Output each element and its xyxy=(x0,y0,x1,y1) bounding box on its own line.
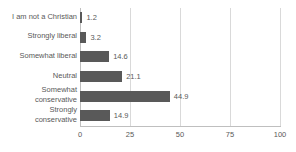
category-label: I am not a Christian xyxy=(3,12,77,22)
horizontal-bar-chart: 1.2 3.2 14.6 21.1 44.9 14.9 I am not a C… xyxy=(0,0,296,152)
gridline-100 xyxy=(280,8,281,126)
bar-value-label: 44.9 xyxy=(174,89,189,104)
bar-row: 14.6 xyxy=(80,47,280,67)
category-label: Neutral xyxy=(3,71,77,81)
bar-row: 1.2 xyxy=(80,8,280,28)
bar-row: 21.1 xyxy=(80,67,280,87)
category-label: Somewhat liberal xyxy=(3,51,77,61)
x-tick-label: 0 xyxy=(65,130,95,140)
bar-row: 44.9 xyxy=(80,87,280,107)
category-label: Strongly liberal xyxy=(3,31,77,41)
bar-segment xyxy=(80,32,86,43)
bar-value-label: 14.9 xyxy=(114,108,129,123)
bar-segment xyxy=(80,71,122,82)
x-axis-line xyxy=(80,126,281,127)
x-tick-label: 75 xyxy=(215,130,245,140)
bar-segment xyxy=(80,12,82,23)
x-tick-label: 50 xyxy=(165,130,195,140)
bar-segment xyxy=(80,51,109,62)
bar-value-label: 3.2 xyxy=(90,30,100,45)
bar-segment xyxy=(80,110,110,121)
bar-value-label: 14.6 xyxy=(113,49,128,64)
category-label: Strongly conservative xyxy=(3,105,77,124)
bar-value-label: 1.2 xyxy=(86,10,96,25)
x-tick-label: 100 xyxy=(265,130,295,140)
bar-segment xyxy=(80,91,170,102)
x-tick-label: 25 xyxy=(115,130,145,140)
plot-area: 1.2 3.2 14.6 21.1 44.9 14.9 xyxy=(80,8,280,126)
bar-row: 14.9 xyxy=(80,106,280,126)
bar-value-label: 21.1 xyxy=(126,69,141,84)
bar-row: 3.2 xyxy=(80,28,280,48)
category-label: Somewhat conservative xyxy=(3,85,77,104)
